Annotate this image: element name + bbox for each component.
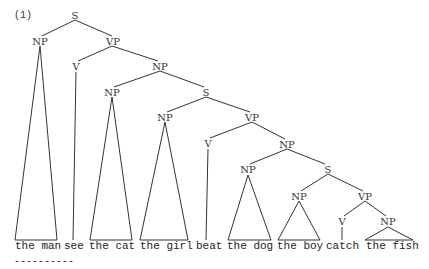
node-s-rel2: S xyxy=(325,164,332,175)
node-np-cat: NP xyxy=(104,87,120,98)
node-v-beat: V xyxy=(203,138,212,149)
leaf-the-girl: the girl xyxy=(140,240,193,252)
leaf-the-dog: the dog xyxy=(227,240,273,252)
tree-leaves: the man see the cat the girl beat the do… xyxy=(15,240,419,252)
node-s-rel1: S xyxy=(203,87,210,98)
node-np-fish: NP xyxy=(380,216,396,227)
node-np-girl: NP xyxy=(157,112,173,123)
node-np-subject: NP xyxy=(32,36,48,47)
node-np-object2: NP xyxy=(279,139,295,150)
leaf-the-man: the man xyxy=(15,240,61,252)
node-vp-rel2: VP xyxy=(357,191,372,202)
leaf-the-boy: the boy xyxy=(277,240,324,252)
leaf-the-fish: the fish xyxy=(366,240,419,252)
node-vp-main: VP xyxy=(105,36,120,47)
leaf-the-cat: the cat xyxy=(89,240,135,252)
leaf-catch: catch xyxy=(326,240,359,252)
tree-edges xyxy=(15,20,413,240)
node-vp-rel1: VP xyxy=(244,112,259,123)
example-label: (1) xyxy=(14,10,32,21)
leaf-beat: beat xyxy=(196,240,222,252)
node-s-root: S xyxy=(72,10,79,21)
node-v-catch: V xyxy=(337,216,346,227)
underline-dashes: ---------- xyxy=(14,256,74,267)
node-np-boy: NP xyxy=(291,191,307,202)
leaf-see: see xyxy=(64,240,84,252)
tree-nodes: S NP VP V NP NP S NP VP V NP NP S NP VP … xyxy=(32,10,396,227)
node-v-see: V xyxy=(71,61,80,72)
node-np-object: NP xyxy=(152,61,168,72)
syntax-tree-diagram: (1) S NP VP V NP NP S xyxy=(0,0,429,269)
node-np-dog: NP xyxy=(240,164,256,175)
